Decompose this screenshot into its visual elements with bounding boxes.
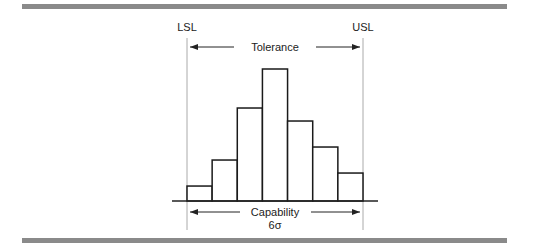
histogram-bar-2 — [212, 160, 237, 201]
histogram-bar-6 — [313, 147, 338, 201]
bottom-frame-bar — [22, 238, 507, 243]
lsl-label: LSL — [177, 21, 197, 33]
usl-label: USL — [352, 21, 373, 33]
tolerance-label: Tolerance — [251, 41, 299, 53]
capability-label: Capability — [251, 206, 300, 218]
process-capability-diagram: LSL USL Tolerance Capability 6σ — [0, 0, 548, 252]
histogram-bar-7 — [338, 173, 363, 201]
six-sigma-label: 6σ — [269, 219, 282, 231]
histogram-bar-5 — [288, 121, 313, 201]
histogram-bar-1 — [187, 186, 212, 201]
histogram-bar-4 — [262, 69, 287, 201]
top-frame-bar — [22, 4, 507, 9]
histogram-bars — [187, 69, 363, 201]
histogram-bar-3 — [237, 108, 262, 201]
